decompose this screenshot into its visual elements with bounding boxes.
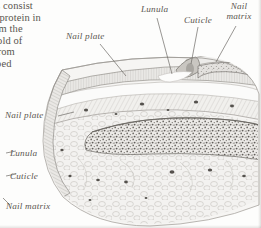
label-cuticle-top: Cuticle [184,15,212,25]
body-text-line: gh protein in [0,12,96,24]
label-nail-matrix-top: Nail matrix [222,2,256,21]
body-text-line: d from [0,46,96,58]
label-nail-plate-top: Nail plate [66,31,105,41]
label-nail-plate-left: Nail plate [5,110,44,120]
label-lunula-top: Lunula [141,4,168,14]
leader-nail-matrix-top [216,26,236,62]
label-lunula-left: Lunula [10,148,37,158]
body-text-line: oes consist [0,0,96,12]
figure-canvas: oes consist gh protein in from the a fol… [0,0,261,228]
page-edge-shadow-bottom [0,225,261,228]
body-text-line: haped [0,58,96,70]
page-edge-shadow-right [258,0,261,228]
label-cuticle-left: Cuticle [10,171,38,181]
label-nail-matrix-left: Nail matrix [6,201,50,211]
